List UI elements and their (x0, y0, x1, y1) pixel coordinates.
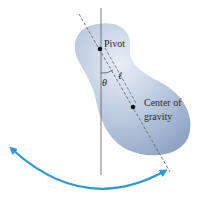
center-of-gravity-label-line2: gravity (144, 111, 172, 122)
pivot-label: Pivot (104, 38, 125, 49)
length-label: ℓ (118, 70, 122, 81)
center-of-gravity-point (131, 105, 136, 110)
rigid-body (75, 23, 191, 155)
oscillation-arrow (13, 150, 165, 189)
pendulum-diagram: Pivot θ ℓ Center of gravity (0, 0, 203, 198)
theta-label: θ (102, 77, 107, 88)
pivot-point (98, 47, 103, 52)
center-of-gravity-label-line1: Center of (144, 97, 182, 108)
